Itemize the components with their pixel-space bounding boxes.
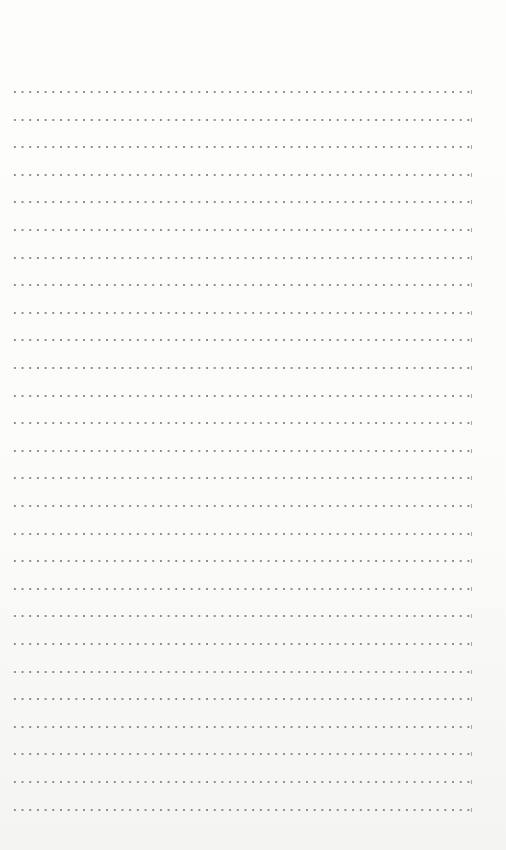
dotted-rule-line [11,588,471,590]
line-end-mark [471,338,472,342]
line-end-mark [471,421,472,425]
dotted-rule-line [11,257,471,259]
dotted-rule-line [11,615,471,617]
line-end-mark [471,449,472,453]
dotted-rule-line [11,284,471,286]
line-end-mark [471,642,472,646]
line-end-mark [471,145,472,149]
dotted-rule-line [11,312,471,314]
dotted-rule-line [11,229,471,231]
dotted-rule-line [11,560,471,562]
dotted-rule-line [11,671,471,673]
dotted-rule-line [11,781,471,783]
dotted-rule-line [11,146,471,148]
dotted-rule-line [11,339,471,341]
line-end-mark [471,228,472,232]
line-end-mark [471,532,472,536]
line-end-mark [471,752,472,756]
line-end-mark [471,394,472,398]
line-end-mark [471,311,472,315]
dotted-rule-line [11,643,471,645]
dotted-rule-line [11,422,471,424]
dotted-rule-line [11,367,471,369]
dotted-rule-line [11,119,471,121]
dotted-rule-line [11,505,471,507]
line-end-mark [471,697,472,701]
line-end-mark [471,808,472,812]
line-end-mark [471,670,472,674]
dotted-rule-line [11,726,471,728]
line-end-mark [471,118,472,122]
dotted-rule-line [11,91,471,93]
dotted-rule-line [11,450,471,452]
dotted-rule-line [11,809,471,811]
dotted-paper-page [0,0,506,850]
dotted-rule-line [11,477,471,479]
line-end-mark [471,173,472,177]
line-end-mark [471,256,472,260]
line-end-mark [471,200,472,204]
dotted-rule-line [11,753,471,755]
dotted-rule-line [11,533,471,535]
line-end-mark [471,366,472,370]
dotted-rule-line [11,174,471,176]
line-end-mark [471,504,472,508]
dotted-rule-line [11,201,471,203]
line-end-mark [471,614,472,618]
line-end-mark [471,780,472,784]
line-end-mark [471,587,472,591]
line-end-mark [471,725,472,729]
line-end-mark [471,476,472,480]
line-end-mark [471,90,472,94]
line-end-mark [471,283,472,287]
dotted-rule-line [11,395,471,397]
line-end-mark [471,559,472,563]
dotted-rule-line [11,698,471,700]
